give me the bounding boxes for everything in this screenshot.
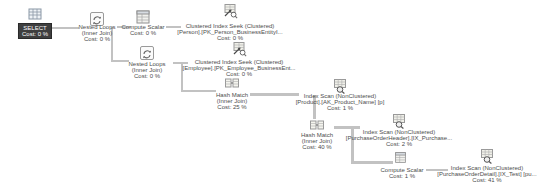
node-label-nested-loops-1: Nested Loops(Inner Join)Cost: 0 % [78,24,115,42]
node-label-nested-loops-2: Nested Loops(Inner Join)Cost: 0 % [128,61,165,79]
node-label-line: Cost: 0 % [128,73,165,79]
node-label-index-scan-product: Index Scan (NonClustered)[Product].[AK_P… [296,93,385,111]
compute-scalar-icon[interactable] [135,9,151,25]
clustered-index-seek-icon[interactable] [222,3,238,19]
node-label-line: Cost: 0 % [121,30,164,36]
node-label-line: Cost: 0 % [177,35,282,41]
nested-loops-icon[interactable] [139,45,155,61]
hash-match-icon[interactable] [224,75,240,91]
node-label-clustered-index-seek-person: Clustered Index Seek (Clustered)[Person]… [177,23,282,41]
node-label-line: Cost: 0 % [22,31,48,37]
connector-segment [181,90,216,92]
node-label-select: SELECTCost: 0 % [18,23,52,39]
node-label-line: Cost: 25 % [216,104,248,110]
execution-plan-canvas: SELECTCost: 0 %Nested Loops(Inner Join)C… [0,0,555,190]
compute-scalar-icon[interactable] [394,151,407,164]
connector-segment [250,93,299,96]
node-label-index-scan-purchaseorderheader: Index Scan (NonClustered)[PurchaseOrderH… [346,129,452,147]
node-label-line: Cost: 41 % [437,177,536,183]
hash-match-icon[interactable] [309,117,325,133]
result-grid-icon[interactable] [27,6,43,22]
index-scan-icon[interactable] [479,148,495,164]
index-scan-icon[interactable] [391,113,407,129]
node-label-line: Cost: 0 % [78,36,115,42]
node-label-line: Cost: 2 % [346,141,452,147]
node-label-hash-match-2: Hash Match(Inner Join)Cost: 40 % [301,132,333,150]
node-label-hash-match-1: Hash Match(Inner Join)Cost: 25 % [216,92,248,110]
node-label-index-scan-purchaseorderdetail: Index Scan (NonClustered)[PurchaseOrderD… [437,165,536,183]
node-label-compute-scalar-2: Compute ScalarCost: 1 % [380,167,423,179]
node-label-line: Cost: 1 % [380,173,423,179]
connector-segment [351,161,393,164]
node-label-line: Cost: 40 % [301,144,333,150]
connector-segment [111,60,129,62]
index-scan-icon[interactable] [332,78,348,94]
node-label-line: Cost: 1 % [296,105,385,111]
node-label-compute-scalar-1: Compute ScalarCost: 0 % [121,24,164,36]
clustered-index-seek-icon[interactable] [231,41,247,57]
